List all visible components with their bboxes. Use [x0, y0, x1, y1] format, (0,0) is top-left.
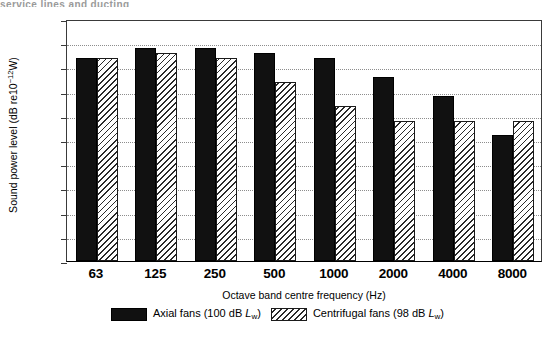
y-tick-mark-55 [61, 239, 67, 240]
y-tick-mark-85 [61, 94, 67, 95]
bar-axial-1000 [314, 58, 335, 261]
y-axis-title-prefix: Sound power level (dB re10 [7, 83, 19, 213]
legend-swatch-centrifugal [271, 308, 307, 321]
y-tick-mark-100 [61, 21, 67, 22]
legend-label-axial-fans: Axial fans (100 dB Lw) [153, 307, 261, 321]
bar-series-container [67, 21, 541, 261]
bar-chart-figure: Sound power level (dB re10−12W) 50556065… [0, 8, 555, 338]
bar-centrifugal-2000 [394, 121, 415, 261]
bar-group-2000 [373, 21, 415, 261]
bar-centrifugal-8000 [513, 121, 534, 261]
bar-group-8000 [492, 21, 534, 261]
legend-item-centrifugal-fans[interactable]: Centrifugal fans (98 dB Lw) [271, 307, 444, 321]
bar-group-1000 [314, 21, 356, 261]
bar-centrifugal-125 [156, 53, 177, 261]
y-tick-mark-90 [61, 69, 67, 70]
bar-axial-4000 [433, 96, 454, 261]
bar-axial-250 [195, 48, 216, 261]
x-tick-label-8000: 8000 [472, 266, 552, 281]
bar-group-4000 [433, 21, 475, 261]
bar-centrifugal-1000 [335, 106, 356, 261]
bar-axial-500 [254, 53, 275, 261]
legend-label-centrifugal-fans: Centrifugal fans (98 dB Lw) [313, 307, 444, 321]
bar-centrifugal-250 [216, 58, 237, 261]
x-axis-title: Octave band centre frequency (Hz) [66, 289, 542, 301]
y-axis-title: Sound power level (dB re10−12W) [6, 20, 22, 250]
y-tick-mark-50 [61, 263, 67, 264]
y-tick-mark-65 [61, 190, 67, 191]
bar-axial-63 [76, 58, 97, 261]
y-tick-mark-70 [61, 166, 67, 167]
y-tick-mark-95 [61, 45, 67, 46]
chart-legend: Axial fans (100 dB Lw)Centrifugal fans (… [0, 307, 555, 321]
y-tick-mark-75 [61, 142, 67, 143]
bar-centrifugal-63 [97, 58, 118, 261]
legend-swatch-axial [111, 308, 147, 321]
bar-centrifugal-4000 [454, 121, 475, 261]
cut-off-caption-fragment: service lines and ducting [0, 0, 260, 7]
y-axis-title-suffix: W) [7, 57, 19, 70]
legend-item-axial-fans[interactable]: Axial fans (100 dB Lw) [111, 307, 261, 321]
y-tick-mark-80 [61, 118, 67, 119]
bar-group-125 [135, 21, 177, 261]
bar-group-250 [195, 21, 237, 261]
bar-axial-125 [135, 48, 156, 261]
y-axis-title-exponent: −12 [6, 71, 15, 84]
bar-centrifugal-500 [275, 82, 296, 261]
bar-group-500 [254, 21, 296, 261]
y-tick-mark-60 [61, 215, 67, 216]
bar-axial-8000 [492, 135, 513, 261]
plot-area [66, 20, 542, 262]
bar-axial-2000 [373, 77, 394, 261]
bar-group-63 [76, 21, 118, 261]
